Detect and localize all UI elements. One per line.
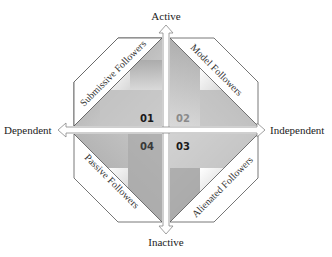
axis-label-independent: Independent: [270, 124, 324, 136]
number-04: 04: [140, 141, 154, 152]
axis-label-inactive: Inactive: [148, 236, 184, 248]
quadrant-alienated-followers: Alienated Followers 03: [170, 134, 258, 222]
quadrant-submissive-followers: Submissive Followers 01: [74, 38, 162, 126]
quadrant-passive-followers: Passive Followers 04: [74, 134, 162, 222]
number-03: 03: [176, 141, 190, 152]
number-02: 02: [176, 113, 190, 124]
follower-types-diagram: Submissive Followers 01 Model Followers …: [0, 0, 332, 257]
number-01: 01: [140, 113, 154, 124]
axis-label-dependent: Dependent: [4, 124, 52, 136]
axis-label-active: Active: [151, 10, 180, 22]
quadrant-model-followers: Model Followers 02: [170, 38, 258, 126]
